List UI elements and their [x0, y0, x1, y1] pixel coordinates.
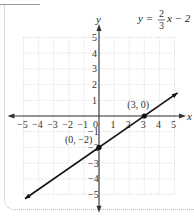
y-tick-label: −4 — [88, 173, 99, 184]
line-path — [25, 93, 178, 199]
point-label: (0, −2) — [65, 134, 92, 146]
coordinate-plane: xy −5−4−3−2−101234554321−1−2−3−4−5 (3, 0… — [0, 0, 194, 216]
x-tick-label: −3 — [47, 119, 58, 130]
x-axis-right-arrow-icon — [179, 114, 186, 119]
x-tick-label: −1 — [77, 119, 88, 130]
svg-text:2: 2 — [159, 8, 164, 19]
data-point — [142, 113, 147, 118]
svg-text:3: 3 — [159, 20, 164, 31]
data-point — [96, 145, 101, 150]
y-tick-label: 4 — [92, 48, 97, 59]
x-tick-label: 4 — [156, 119, 161, 130]
y-axis-down-arrow-icon — [97, 206, 102, 213]
y-tick-label: 1 — [92, 95, 97, 106]
y-axis-up-arrow-icon — [97, 24, 102, 31]
y-tick-label: 3 — [92, 63, 97, 74]
y-axis-label: y — [95, 13, 101, 25]
svg-text:x − 2: x − 2 — [166, 12, 191, 24]
svg-text:y =: y = — [137, 12, 153, 24]
point-label: (3, 0) — [127, 99, 149, 111]
equation-label: y = 2 3 x − 2 — [137, 8, 191, 31]
x-axis-left-arrow-icon — [7, 114, 14, 119]
x-tick-label: 1 — [111, 119, 116, 130]
x-tick-label: −2 — [62, 119, 73, 130]
y-tick-label: 2 — [92, 79, 97, 90]
x-tick-label: 3 — [141, 119, 146, 130]
y-tick-label: −5 — [88, 189, 99, 200]
x-tick-label: 5 — [171, 119, 176, 130]
y-tick-label: 5 — [92, 32, 97, 43]
line-series — [25, 93, 178, 199]
y-tick-label: −3 — [88, 158, 99, 169]
x-axis-label: x — [186, 110, 192, 122]
x-tick-label: −5 — [17, 119, 28, 130]
axes: xy — [7, 13, 192, 213]
x-tick-label: −4 — [32, 119, 43, 130]
